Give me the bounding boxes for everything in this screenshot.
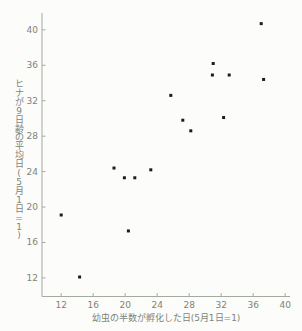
y-tick-label: 12 [27, 273, 38, 283]
data-point [260, 22, 263, 25]
data-point [212, 62, 215, 65]
data-point [127, 229, 130, 232]
data-point [228, 74, 231, 77]
x-tick-label: 28 [183, 300, 195, 310]
data-point [222, 116, 225, 119]
data-point [60, 213, 63, 216]
data-point [113, 167, 116, 170]
x-tick-label: 32 [215, 300, 226, 310]
y-axis-label-char: ) [17, 231, 21, 240]
data-point [211, 74, 214, 77]
x-tick-label: 16 [87, 300, 99, 310]
x-tick-label: 40 [279, 300, 291, 310]
scatter-plot-page: 12162024283236401216202428323640 ヒナが9日齢の… [0, 0, 302, 331]
x-axis-label: 幼虫の半数が孵化した日(5月1日=1) [42, 311, 290, 324]
data-point [123, 176, 126, 179]
scatter-chart: 12162024283236401216202428323640 [0, 0, 302, 331]
x-tick-label: 20 [119, 300, 131, 310]
x-tick-label: 12 [55, 300, 66, 310]
x-tick-label: 24 [151, 300, 163, 310]
data-point [78, 276, 81, 279]
data-point [262, 78, 265, 81]
data-point [181, 119, 184, 122]
y-tick-label: 40 [27, 25, 39, 35]
y-tick-label: 36 [27, 60, 39, 70]
x-tick-label: 36 [247, 300, 259, 310]
data-point [149, 168, 152, 171]
data-point [169, 94, 172, 97]
data-point [189, 129, 192, 132]
data-point [133, 176, 136, 179]
y-axis-label: ヒナが9日齢の平均日(5月1日=1) [8, 80, 30, 240]
